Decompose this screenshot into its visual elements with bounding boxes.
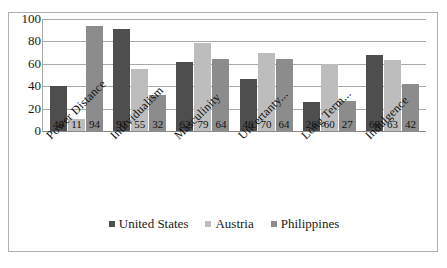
bar-philippines[interactable]: 64 bbox=[276, 19, 293, 131]
legend-swatch-icon bbox=[109, 221, 115, 227]
plot-area: 401194915532627964467064266027686342 bbox=[42, 19, 426, 132]
legend-item-philippines[interactable]: Philippines bbox=[271, 216, 340, 232]
bar-philippines[interactable]: 42 bbox=[402, 19, 419, 131]
legend-item-austria[interactable]: Austria bbox=[205, 216, 253, 232]
bar-philippines[interactable]: 32 bbox=[149, 19, 166, 131]
bar-philippines[interactable]: 64 bbox=[212, 19, 229, 131]
legend-label: Austria bbox=[215, 216, 253, 232]
bar-value-label: 64 bbox=[215, 119, 226, 130]
legend-swatch-icon bbox=[271, 221, 277, 227]
legend-label: United States bbox=[119, 216, 189, 232]
chart-legend: United StatesAustriaPhilippines bbox=[9, 216, 439, 232]
bars-layer: 401194915532627964467064266027686342 bbox=[43, 19, 426, 131]
bar-value-label: 94 bbox=[89, 119, 100, 130]
y-axis-tick-label: 40 bbox=[9, 81, 41, 91]
y-axis-tick-label: 60 bbox=[9, 59, 41, 69]
y-axis-tick-label: 80 bbox=[9, 36, 41, 46]
y-axis-tick-label: 0 bbox=[9, 126, 41, 136]
chart-frame: 100806040200 401194915532627964467064266… bbox=[8, 12, 438, 252]
legend-label: Philippines bbox=[281, 216, 340, 232]
legend-item-united-states[interactable]: United States bbox=[109, 216, 189, 232]
x-axis-labels: Power DistanceIndividualismMasculinityUn… bbox=[42, 133, 425, 211]
y-axis: 100806040200 bbox=[9, 19, 41, 131]
legend-swatch-icon bbox=[205, 221, 211, 227]
y-axis-tick-label: 20 bbox=[9, 104, 41, 114]
bar-value-label: 32 bbox=[152, 119, 163, 130]
bar-value-label: 42 bbox=[405, 119, 416, 130]
bar-value-label: 64 bbox=[279, 119, 290, 130]
bar-value-label: 27 bbox=[342, 119, 353, 130]
bar-philippines[interactable]: 94 bbox=[86, 19, 103, 131]
y-axis-tick-label: 100 bbox=[9, 14, 41, 24]
bar-philippines[interactable]: 27 bbox=[339, 19, 356, 131]
